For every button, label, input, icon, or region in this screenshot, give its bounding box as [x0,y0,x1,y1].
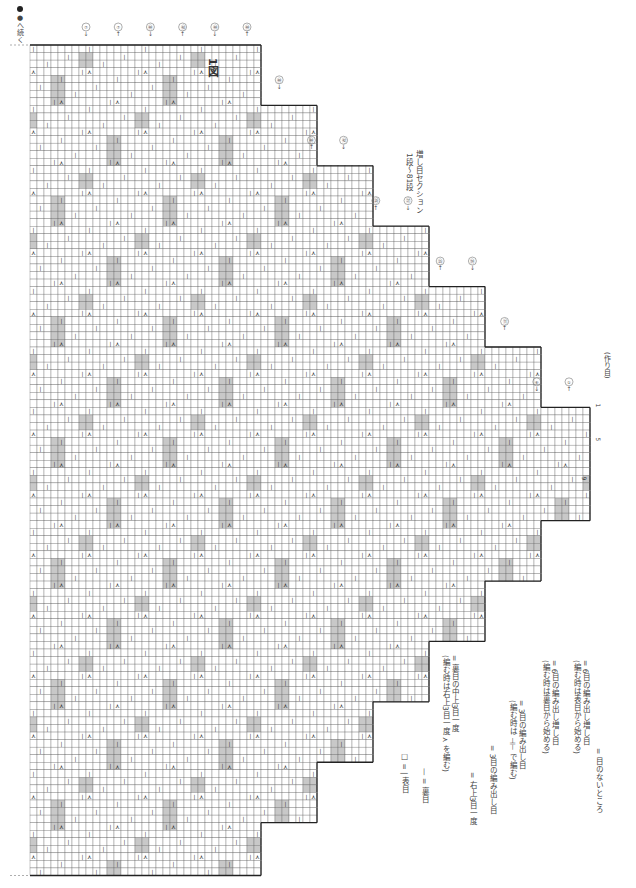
svg-text:⋏: ⋏ [339,279,344,286]
svg-text:|: | [243,635,245,642]
svg-text:|: | [362,310,364,317]
svg-text:⋏: ⋏ [59,581,64,588]
svg-text:⋏: ⋏ [311,672,316,679]
svg-text:|: | [187,514,189,521]
svg-text:|: | [362,733,364,740]
svg-text:|: | [327,484,329,491]
svg-text:|: | [250,190,252,197]
svg-text:⋏: ⋏ [339,521,344,528]
svg-text:|: | [236,114,238,121]
svg-text:|: | [173,197,175,204]
svg-text:⋏: ⋏ [31,128,36,135]
svg-text:|: | [40,507,42,514]
svg-text:|: | [313,167,315,174]
svg-text:|: | [397,620,399,627]
svg-text:|: | [411,575,413,582]
svg-text:⋏: ⋏ [367,430,372,437]
svg-text:↑: ↑ [244,30,249,37]
svg-text:|: | [425,469,427,476]
svg-text:|: | [159,363,161,370]
svg-text:|: | [117,499,119,506]
svg-text:⋏: ⋏ [31,430,36,437]
svg-text:|: | [215,484,217,491]
svg-text:⋏: ⋏ [367,672,372,679]
svg-text:|: | [89,529,91,536]
svg-text:⋏: ⋏ [283,219,288,226]
svg-text:⋏: ⋏ [227,702,232,709]
svg-text:|: | [250,733,252,740]
svg-text:⋏: ⋏ [199,430,204,437]
svg-text:|: | [292,114,294,121]
svg-text:|: | [117,559,119,566]
svg-text:|: | [89,469,91,476]
svg-text:|: | [110,582,112,589]
svg-text:|: | [145,227,147,234]
svg-text:|: | [271,242,273,249]
svg-text:⋏: ⋏ [339,702,344,709]
svg-text:|: | [292,537,294,544]
svg-text:|: | [348,718,350,725]
svg-text:|: | [243,273,245,280]
svg-text:⋏: ⋏ [395,642,400,649]
svg-text:|: | [495,484,497,491]
svg-text:|: | [418,371,420,378]
svg-text:|: | [558,461,560,468]
svg-text:|: | [194,492,196,499]
svg-text:⋏: ⋏ [283,279,288,286]
svg-text:|: | [173,137,175,144]
svg-text:⋏: ⋏ [395,340,400,347]
svg-text:|: | [89,771,91,778]
svg-text:|: | [180,235,182,242]
svg-text:|: | [285,680,287,687]
svg-text:|: | [68,54,70,61]
svg-text:|: | [229,499,231,506]
svg-text:|: | [173,559,175,566]
svg-text:⋏: ⋏ [199,612,204,619]
svg-text:|: | [229,439,231,446]
svg-text:|: | [271,363,273,370]
svg-text:|: | [201,348,203,355]
svg-text:|: | [306,673,308,680]
svg-text:|: | [285,439,287,446]
svg-text:⋏: ⋏ [423,430,428,437]
svg-text:|: | [355,273,357,280]
svg-text:|: | [82,612,84,619]
svg-text:|: | [75,575,77,582]
svg-text:⋏: ⋏ [367,491,372,498]
svg-text:|: | [180,537,182,544]
svg-text:|: | [82,431,84,438]
svg-text:⋏: ⋏ [227,763,232,770]
svg-text:⋏: ⋏ [143,189,148,196]
svg-text:|: | [61,378,63,385]
svg-text:|: | [110,522,112,529]
svg-text:⋏: ⋏ [31,732,36,739]
svg-text:|: | [159,665,161,672]
svg-text:|: | [299,575,301,582]
svg-text:|: | [467,575,469,582]
svg-text:|: | [166,461,168,468]
svg-text:|: | [187,635,189,642]
svg-text:|: | [215,182,217,189]
svg-text:⋏: ⋏ [199,128,204,135]
svg-text:|: | [145,590,147,597]
svg-text:|: | [47,665,49,672]
svg-text:⋏: ⋏ [171,702,176,709]
svg-text:|: | [96,325,98,332]
svg-text:|: | [418,431,420,438]
svg-text:|: | [117,801,119,808]
svg-text:|: | [166,824,168,831]
svg-text:|: | [201,590,203,597]
svg-text:|: | [166,220,168,227]
svg-text:|: | [131,575,133,582]
svg-text:|: | [138,854,140,861]
svg-text:|: | [292,174,294,181]
svg-text:|: | [285,378,287,385]
svg-text:|: | [257,771,259,778]
svg-text:|: | [180,597,182,604]
svg-text:|: | [481,469,483,476]
svg-text:|: | [75,333,77,340]
svg-text:|: | [124,658,126,665]
legend-3-stitch-cast: = 3目の編み出し目 [488,745,497,814]
svg-text:|: | [110,341,112,348]
svg-text:|: | [173,439,175,446]
